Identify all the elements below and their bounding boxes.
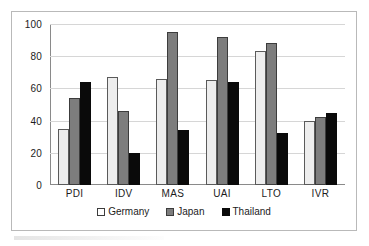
bar-mas-thailand [178,130,189,185]
y-axis-tick-label: 0 [36,180,42,191]
bar-ivr-germany [304,121,315,185]
chart-legend: GermanyJapanThailand [12,206,356,217]
legend-swatch-japan-icon [166,208,174,216]
x-axis: PDIIDVMASUAILTOIVR [50,188,345,204]
bar-pdi-germany [58,129,69,185]
legend-swatch-thailand-icon [222,208,230,216]
x-axis-tick-label-idv: IDV [115,188,133,199]
x-axis-tick-label-lto: LTO [262,188,281,199]
scan-artifact [14,236,164,240]
bar-group-uai [198,24,247,185]
bars-layer [50,24,345,185]
y-axis-tick-label: 60 [30,83,42,94]
y-axis-tick-label: 20 [30,147,42,158]
legend-swatch-germany-icon [97,208,105,216]
bar-lto-germany [255,51,266,185]
bar-mas-japan [167,32,178,185]
chart-frame: 020406080100 PDIIDVMASUAILTOIVR GermanyJ… [11,11,357,231]
bar-idv-thailand [129,153,140,185]
y-axis: 020406080100 [12,24,46,185]
y-axis-tick-label: 80 [30,51,42,62]
bar-mas-germany [156,79,167,185]
bar-group-ivr [296,24,345,185]
x-axis-tick-label-ivr: IVR [312,188,330,199]
legend-entry-germany: Germany [97,206,149,217]
bar-chart-figure: 020406080100 PDIIDVMASUAILTOIVR GermanyJ… [0,0,369,246]
bar-lto-thailand [277,133,288,185]
bar-idv-japan [118,111,129,185]
legend-label: Japan [177,206,204,217]
bar-lto-japan [266,43,277,185]
legend-entry-thailand: Thailand [222,206,271,217]
legend-label: Germany [108,206,149,217]
bar-group-lto [247,24,296,185]
x-axis-tick-label-uai: UAI [213,188,231,199]
bar-group-mas [148,24,197,185]
legend-label: Thailand [233,206,271,217]
bar-idv-germany [107,77,118,185]
bar-group-pdi [50,24,99,185]
x-axis-tick-label-mas: MAS [162,188,185,199]
bar-ivr-japan [315,117,326,185]
bar-ivr-thailand [326,113,337,185]
y-axis-tick-label: 100 [25,19,42,30]
bar-pdi-thailand [80,82,91,185]
bar-uai-thailand [228,82,239,185]
bar-uai-japan [217,37,228,185]
bar-uai-germany [206,80,217,185]
x-axis-tick-label-pdi: PDI [66,188,84,199]
bar-pdi-japan [69,98,80,185]
legend-entry-japan: Japan [166,206,204,217]
y-axis-tick-label: 40 [30,115,42,126]
bar-group-idv [99,24,148,185]
